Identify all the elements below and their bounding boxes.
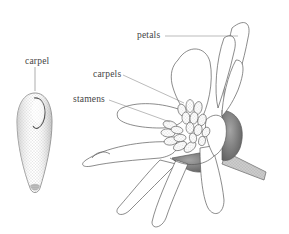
label-carpels: carpels — [93, 70, 121, 80]
carpel-drawing — [17, 67, 52, 193]
label-stamens: stamens — [73, 95, 105, 105]
label-carpel: carpel — [25, 57, 49, 67]
botanical-figure: carpel petals carpels stamens — [0, 0, 289, 234]
flower-drawing — [83, 23, 266, 227]
label-petals: petals — [137, 31, 160, 41]
